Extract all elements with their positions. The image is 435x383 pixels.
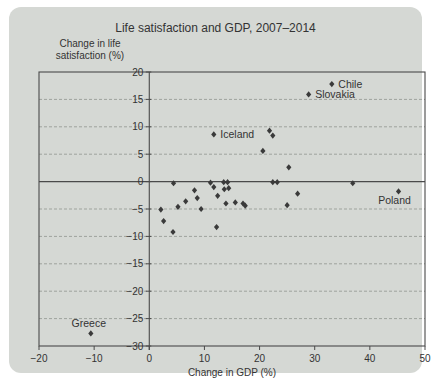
- y-tick-label: −10: [126, 231, 143, 242]
- data-point: [233, 199, 238, 205]
- x-tick-label: −10: [86, 353, 103, 364]
- data-point: [170, 229, 175, 235]
- y-tick-label: −5: [132, 204, 144, 215]
- data-point: [183, 198, 188, 204]
- data-point: [306, 91, 311, 97]
- data-point: [267, 128, 272, 134]
- data-point: [161, 218, 166, 224]
- data-point: [285, 202, 290, 208]
- data-point: [195, 195, 200, 201]
- data-point: [88, 330, 93, 336]
- x-tick-label: 20: [254, 353, 266, 364]
- y-tick-label: −25: [126, 313, 143, 324]
- data-point: [208, 180, 213, 186]
- y-tick-label: 0: [138, 176, 144, 187]
- y-tick-label: 10: [132, 121, 144, 132]
- y-tick-label: −15: [126, 258, 143, 269]
- x-tick-label: −20: [31, 353, 48, 364]
- data-point: [270, 132, 275, 138]
- data-point: [329, 81, 334, 87]
- y-tick-label: 15: [132, 94, 144, 105]
- data-point: [275, 179, 280, 185]
- data-point: [192, 187, 197, 193]
- x-tick-label: 30: [309, 353, 321, 364]
- data-point: [214, 224, 219, 230]
- data-point: [199, 206, 204, 212]
- x-axis-label: Change in GDP (%): [188, 367, 276, 378]
- country-label: Greece: [72, 317, 107, 329]
- x-tick-label: 10: [199, 353, 211, 364]
- data-point: [225, 179, 230, 185]
- x-tick-label: 0: [147, 353, 153, 364]
- data-point: [223, 200, 228, 206]
- data-point: [158, 206, 163, 212]
- country-label: Poland: [378, 194, 411, 206]
- data-point: [260, 148, 265, 154]
- data-point: [226, 185, 231, 191]
- x-tick-label: 40: [364, 353, 376, 364]
- data-point: [211, 184, 216, 190]
- data-point: [222, 186, 227, 192]
- country-label: Slovakia: [315, 88, 355, 100]
- data-point: [215, 193, 220, 199]
- country-label: Iceland: [220, 128, 254, 140]
- x-tick-label: 50: [419, 353, 431, 364]
- y-tick-label: 20: [132, 67, 144, 78]
- data-point: [286, 164, 291, 170]
- y-tick-label: −20: [126, 286, 143, 297]
- y-tick-label: 5: [138, 149, 144, 160]
- scatter-plot: −20−100102030405020151050−5−10−15−20−25−…: [9, 7, 435, 383]
- data-point: [211, 131, 216, 137]
- chart-card: Life satisfaction and GDP, 2007–2014 Cha…: [9, 7, 422, 373]
- data-point: [295, 191, 300, 197]
- y-tick-label: −30: [126, 341, 143, 352]
